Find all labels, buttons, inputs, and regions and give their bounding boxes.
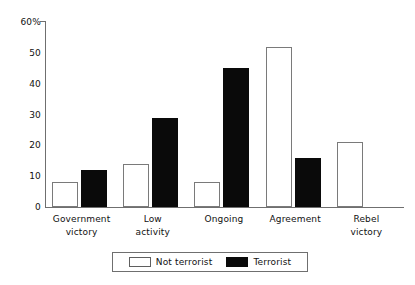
legend-swatch-icon-not-terrorist <box>129 257 151 267</box>
x-axis-category-line: Government <box>46 213 117 226</box>
x-axis-category-label: Ongoing <box>188 213 259 226</box>
x-axis-line <box>45 207 404 208</box>
x-axis-category-line: activity <box>117 226 188 239</box>
bar-dark <box>152 118 178 207</box>
y-axis-tick-label: 20 <box>29 140 41 150</box>
bar-dark <box>295 158 321 207</box>
bar-group <box>331 22 402 207</box>
x-axis-category-line: Rebel <box>331 213 402 226</box>
bar-group <box>46 22 117 207</box>
y-axis-tick-label: 30 <box>29 110 41 120</box>
x-axis-category-label: Lowactivity <box>117 213 188 238</box>
legend-entry-terrorist: Terrorist <box>226 257 291 267</box>
y-axis-tick-label: 40 <box>29 79 41 89</box>
legend-label-terrorist: Terrorist <box>253 257 291 267</box>
legend-label-not-terrorist: Not terrorist <box>156 257 213 267</box>
bar-light <box>194 182 220 207</box>
legend-swatch-icon-terrorist <box>226 257 248 267</box>
y-axis-tick-label: 0 <box>35 202 41 212</box>
bar-dark <box>223 68 249 207</box>
bar-light <box>337 142 363 207</box>
x-axis-category-line: Low <box>117 213 188 226</box>
bar-light <box>52 182 78 207</box>
y-axis-tick-label: 50 <box>29 48 41 58</box>
chart-container: 0102030405060% Not terrorist Terrorist G… <box>0 0 415 285</box>
y-axis-labels: 0102030405060% <box>0 0 41 285</box>
x-axis-category-label: Governmentvictory <box>46 213 117 238</box>
y-axis-tick-label: 10 <box>29 171 41 181</box>
legend-entry-not-terrorist: Not terrorist <box>129 257 213 267</box>
x-axis-category-label: Rebelvictory <box>331 213 402 238</box>
bar-group <box>117 22 188 207</box>
chart-legend: Not terrorist Terrorist <box>112 252 308 272</box>
x-axis-category-line: Agreement <box>260 213 331 226</box>
bar-group <box>260 22 331 207</box>
x-axis-category-line: victory <box>46 226 117 239</box>
y-axis-tick-label: 60% <box>20 17 41 27</box>
bar-group <box>188 22 259 207</box>
plot-area <box>46 22 402 207</box>
x-axis-category-line: victory <box>331 226 402 239</box>
x-axis-category-label: Agreement <box>260 213 331 226</box>
bar-light <box>266 47 292 207</box>
x-axis-category-line: Ongoing <box>188 213 259 226</box>
bar-light <box>123 164 149 207</box>
bar-dark <box>81 170 107 207</box>
